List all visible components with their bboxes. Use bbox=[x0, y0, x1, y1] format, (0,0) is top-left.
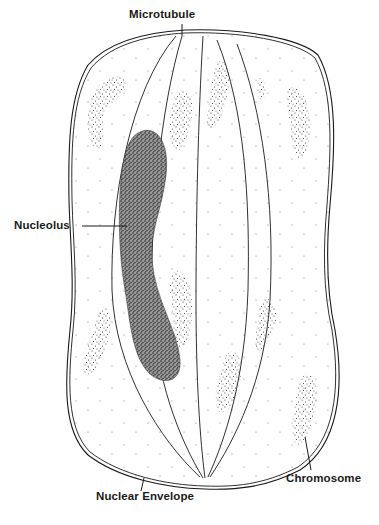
nucleus-diagram bbox=[0, 0, 379, 525]
label-microtubule: Microtubule bbox=[129, 8, 195, 20]
label-chromosome: Chromosome bbox=[286, 472, 361, 484]
label-nucleolus: Nucleolus bbox=[14, 219, 70, 231]
label-nuclear-envelope: Nuclear Envelope bbox=[96, 490, 194, 502]
